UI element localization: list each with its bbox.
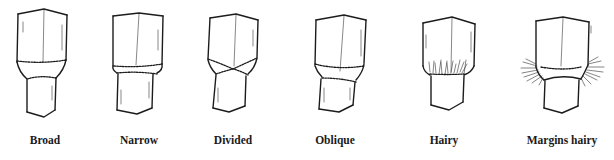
ligule-broad-drawing	[17, 9, 67, 117]
ligule-hairy-drawing	[423, 17, 475, 110]
label-divided: Divided	[214, 134, 252, 146]
ligule-oblique-drawing	[315, 15, 366, 112]
label-narrow: Narrow	[120, 134, 158, 146]
label-oblique: Oblique	[315, 134, 355, 146]
ligule-margins-hairy-drawing	[521, 17, 604, 113]
label-margins-hairy: Margins hairy	[527, 134, 598, 146]
ligule-narrow-drawing	[113, 13, 163, 114]
illustration-canvas	[0, 0, 614, 160]
label-hairy: Hairy	[430, 134, 459, 146]
label-broad: Broad	[30, 134, 60, 146]
ligule-divided-drawing	[208, 14, 258, 112]
